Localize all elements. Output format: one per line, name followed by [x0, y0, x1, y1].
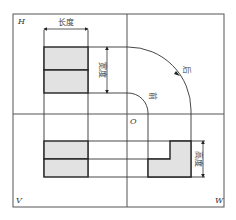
top-view-face-lower: [44, 70, 88, 93]
origin-label: O: [130, 117, 137, 126]
side-view-face: [148, 141, 191, 177]
projection-diagram: 长度 宽度 高度 前 后 H V W O: [0, 0, 236, 220]
height-label: 高度: [194, 151, 204, 167]
quadrant-label-w: W: [215, 196, 224, 205]
front-view-face-upper: [44, 141, 88, 159]
width-label: 宽度: [98, 62, 108, 78]
front-view-face-lower: [44, 159, 88, 177]
inner-arc-label: 前: [148, 92, 158, 100]
length-label: 长度: [58, 17, 74, 27]
inner-transfer-arc: [88, 93, 148, 177]
outer-frame: [13, 14, 224, 207]
quadrant-label-h: H: [17, 17, 26, 26]
top-view-face-upper: [44, 47, 88, 70]
quadrant-label-v: V: [16, 196, 23, 205]
outer-arc-label: 后: [182, 66, 192, 74]
